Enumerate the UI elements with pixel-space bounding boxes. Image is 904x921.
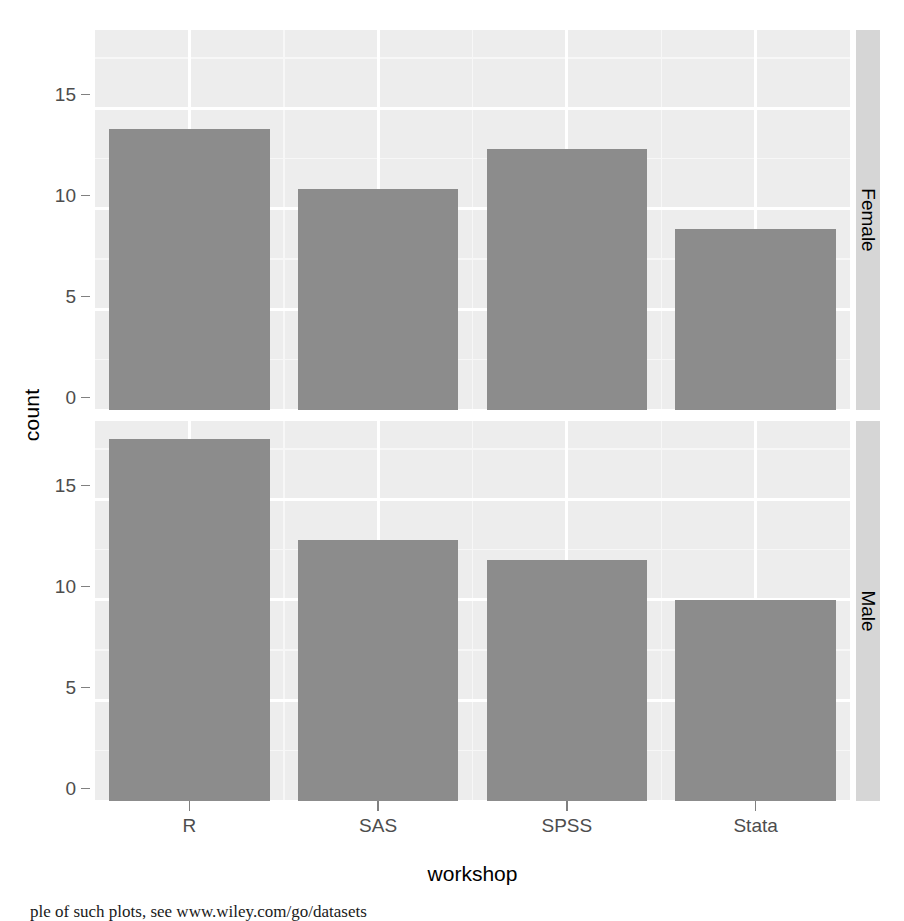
x-tick-mark	[566, 801, 568, 811]
facet-strip-female: Female	[856, 30, 880, 410]
facet-strip-female-label: Female	[857, 188, 879, 251]
bar	[487, 149, 647, 410]
gridline-minor-x	[283, 421, 285, 801]
gridline-minor-x	[472, 421, 474, 801]
bar	[675, 229, 835, 410]
y-tick-female-15: 15	[55, 84, 90, 106]
x-axis-title: workshop	[95, 862, 850, 886]
y-tick-female-5: 5	[65, 286, 90, 308]
bar	[487, 560, 647, 801]
y-axis-title-label: count	[20, 389, 44, 441]
x-tick-mark	[189, 801, 191, 811]
x-axis: RSASSPSSStata	[95, 801, 850, 861]
y-tick-male-5: 5	[65, 677, 90, 699]
facet-panel-male	[95, 421, 850, 801]
gridline-minor-x	[661, 421, 663, 801]
x-tick-mark	[755, 801, 757, 811]
bar	[298, 189, 458, 410]
y-tick-female-0: 0	[65, 387, 90, 409]
gridline-major-y	[95, 107, 850, 110]
x-tick-mark	[377, 801, 379, 811]
x-tick-label-stata: Stata	[733, 815, 777, 837]
gridline-minor-x	[472, 30, 474, 410]
gridline-minor-x	[661, 30, 663, 410]
chart-figure: count 15 10 5 0 15 10 5 0 Female Male RS…	[0, 0, 904, 921]
x-axis-title-label: workshop	[428, 862, 518, 885]
y-axis-ticks-female: 15 10 5 0	[44, 30, 90, 410]
facet-panel-female	[95, 30, 850, 410]
x-tick-label-sas: SAS	[359, 815, 397, 837]
x-tick-label-r: R	[183, 815, 197, 837]
facet-strip-male-label: Male	[857, 590, 879, 631]
gridline-minor-x	[283, 30, 285, 410]
bar	[298, 540, 458, 801]
y-tick-male-15: 15	[55, 475, 90, 497]
y-tick-male-10: 10	[55, 576, 90, 598]
y-tick-female-10: 10	[55, 185, 90, 207]
facet-strip-male: Male	[856, 421, 880, 801]
bar	[109, 129, 269, 410]
figure-caption: ple of such plots, see www.wiley.com/go/…	[30, 901, 880, 921]
x-tick-label-spss: SPSS	[542, 815, 593, 837]
y-axis-ticks-male: 15 10 5 0	[44, 421, 90, 801]
bar	[675, 600, 835, 801]
bar	[109, 439, 269, 801]
y-tick-male-0: 0	[65, 778, 90, 800]
